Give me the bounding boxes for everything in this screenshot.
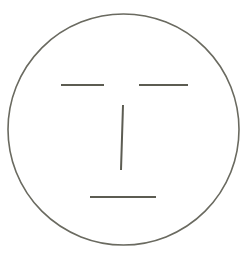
face-drawing (0, 0, 248, 268)
figure-caption: ▬▬▬ ▬ ▬▬ ▬▬▬ (0, 259, 248, 268)
face-outline (8, 14, 239, 245)
nose (121, 105, 123, 170)
